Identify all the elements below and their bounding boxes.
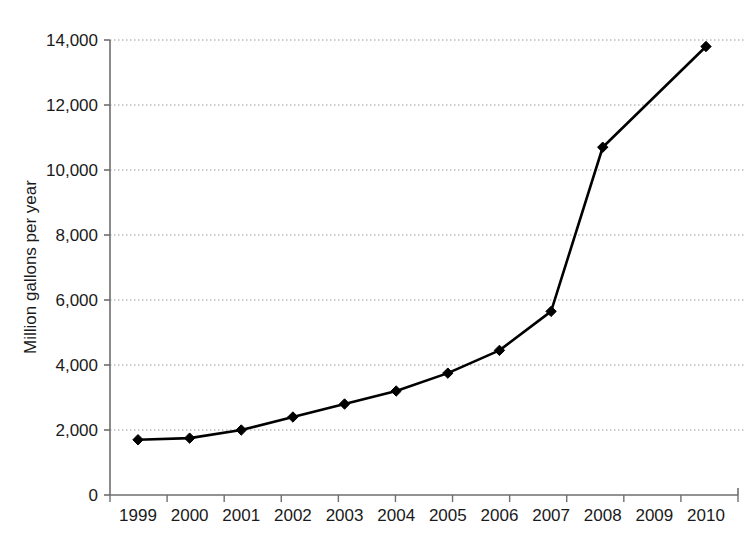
x-tick-label: 2005 (429, 506, 467, 525)
y-axis-title: Million gallons per year (21, 180, 40, 354)
y-tick-label: 12,000 (46, 96, 98, 115)
x-tick-label: 2007 (532, 506, 570, 525)
x-tick-label: 1999 (119, 506, 157, 525)
x-tick-label: 2006 (481, 506, 519, 525)
y-tick-label: 8,000 (55, 226, 98, 245)
x-tick-label: 2000 (171, 506, 209, 525)
y-tick-label: 6,000 (55, 291, 98, 310)
y-tick-label: 2,000 (55, 421, 98, 440)
chart-container: 02,0004,0006,0008,00010,00012,00014,000 … (0, 0, 753, 539)
y-tick-label: 10,000 (46, 161, 98, 180)
chart-background (0, 0, 753, 539)
x-tick-label: 2002 (274, 506, 312, 525)
x-tick-label: 2010 (687, 506, 725, 525)
line-chart: 02,0004,0006,0008,00010,00012,00014,000 … (0, 0, 753, 539)
y-tick-label: 0 (89, 486, 98, 505)
x-tick-label: 2003 (326, 506, 364, 525)
x-tick-label: 2009 (635, 506, 673, 525)
x-tick-label: 2004 (377, 506, 415, 525)
x-tick-label: 2001 (222, 506, 260, 525)
x-tick-label: 2008 (584, 506, 622, 525)
y-tick-label: 14,000 (46, 31, 98, 50)
y-tick-label: 4,000 (55, 356, 98, 375)
